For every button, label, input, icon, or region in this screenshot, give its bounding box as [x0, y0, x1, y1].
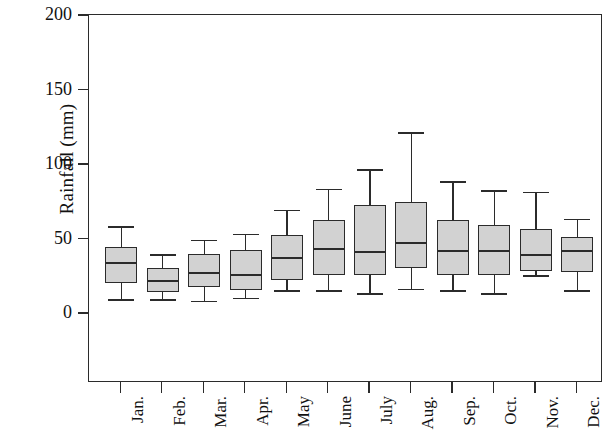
box-plot-figure: Rainfall (mm) 050100150200 Jan.Feb.Mar.A… [0, 0, 615, 436]
x-axis-tick-label: June [336, 396, 356, 436]
x-axis-tick-label: Aug. [418, 396, 438, 436]
upper-whisker-line [494, 190, 495, 224]
median-line [230, 274, 262, 276]
x-axis-tick-label: May [294, 396, 314, 436]
x-axis-tick [368, 382, 369, 393]
interquartile-box [354, 205, 386, 275]
upper-whisker-line [245, 234, 246, 250]
x-axis-tick-label: Sep. [460, 396, 480, 436]
upper-whisker-line [328, 189, 329, 220]
lower-whisker-line [286, 280, 287, 290]
x-axis-tick [576, 382, 577, 393]
interquartile-box [437, 220, 469, 275]
interquartile-box [395, 202, 427, 268]
x-axis-tick-label: Apr. [253, 396, 273, 436]
upper-whisker-line [204, 240, 205, 255]
lower-whisker-cap [398, 289, 424, 291]
interquartile-box [105, 247, 137, 283]
lower-whisker-line [452, 275, 453, 290]
interquartile-box [230, 250, 262, 290]
lower-whisker-line [121, 283, 122, 299]
median-line [354, 251, 386, 253]
median-line [105, 262, 137, 264]
x-axis-tick [327, 382, 328, 393]
x-axis-tick-label: Oct. [501, 396, 521, 436]
x-axis-tick [451, 382, 452, 393]
x-axis-tick [203, 382, 204, 393]
median-line [395, 242, 427, 244]
lower-whisker-line [411, 268, 412, 289]
median-line [437, 250, 469, 252]
x-axis-tick [286, 382, 287, 393]
upper-whisker-line [162, 254, 163, 267]
x-axis-tick-label: Dec. [584, 396, 604, 436]
upper-whisker-cap [108, 226, 134, 228]
median-line [520, 254, 552, 256]
upper-whisker-line [411, 132, 412, 202]
interquartile-box [520, 229, 552, 271]
median-line [561, 250, 593, 252]
x-axis-tick [120, 382, 121, 393]
upper-whisker-cap [316, 189, 342, 191]
lower-whisker-line [494, 275, 495, 293]
upper-whisker-cap [233, 234, 259, 236]
upper-whisker-line [121, 226, 122, 247]
interquartile-box [561, 237, 593, 273]
upper-whisker-cap [150, 254, 176, 256]
y-axis-tick-label: 200 [10, 5, 72, 23]
lower-whisker-cap [357, 293, 383, 295]
lower-whisker-line [328, 275, 329, 290]
lower-whisker-line [245, 290, 246, 297]
interquartile-box [188, 254, 220, 287]
lower-whisker-line [162, 292, 163, 299]
x-axis-tick [410, 382, 411, 393]
upper-whisker-cap [357, 169, 383, 171]
lower-whisker-line [369, 275, 370, 293]
x-axis-tick [244, 382, 245, 393]
lower-whisker-cap [316, 290, 342, 292]
x-axis-tick-label: Jan. [128, 396, 148, 436]
upper-whisker-line [452, 181, 453, 220]
median-line [188, 272, 220, 274]
y-axis-tick-label: 50 [10, 229, 72, 247]
x-axis-tick-label: Feb. [170, 396, 190, 436]
upper-whisker-line [535, 192, 536, 229]
y-axis-tick-label: 100 [10, 154, 72, 172]
x-axis-tick [161, 382, 162, 393]
upper-whisker-cap [523, 192, 549, 194]
upper-whisker-cap [481, 190, 507, 192]
lower-whisker-cap [150, 299, 176, 301]
upper-whisker-line [577, 219, 578, 237]
lower-whisker-cap [191, 301, 217, 303]
median-line [313, 248, 345, 250]
upper-whisker-cap [398, 132, 424, 134]
upper-whisker-line [369, 169, 370, 205]
lower-whisker-cap [481, 293, 507, 295]
upper-whisker-cap [564, 219, 590, 221]
median-line [147, 280, 179, 282]
lower-whisker-line [577, 272, 578, 290]
lower-whisker-cap [274, 290, 300, 292]
y-axis-tick-label: 0 [10, 303, 72, 321]
x-axis-tick-label: July [377, 396, 397, 436]
upper-whisker-cap [191, 240, 217, 242]
x-axis-tick-label: Mar. [211, 396, 231, 436]
y-axis-tick-label: 150 [10, 80, 72, 98]
x-axis-tick-label: Nov. [543, 396, 563, 436]
lower-whisker-cap [440, 290, 466, 292]
lower-whisker-cap [564, 290, 590, 292]
plot-area [88, 14, 602, 382]
median-line [478, 250, 510, 252]
lower-whisker-cap [523, 275, 549, 277]
upper-whisker-cap [440, 181, 466, 183]
median-line [271, 257, 303, 259]
upper-whisker-line [286, 210, 287, 235]
lower-whisker-cap [233, 298, 259, 300]
lower-whisker-line [204, 287, 205, 300]
x-axis-tick [493, 382, 494, 393]
upper-whisker-cap [274, 210, 300, 212]
lower-whisker-cap [108, 299, 134, 301]
x-axis-tick [534, 382, 535, 393]
